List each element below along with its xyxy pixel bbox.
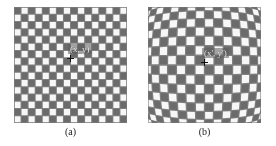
point-label-xy-prime: (x', y'): [202, 48, 229, 58]
crosshair-vertical: [204, 59, 205, 66]
crosshair-icon: [201, 59, 208, 66]
figure-container: (x, y) (x', y') (a) (b): [0, 0, 276, 146]
checkerboard-panel-b: (x', y'): [148, 7, 261, 123]
point-label-xy: (x, y): [68, 44, 92, 54]
caption-a: (a): [14, 126, 127, 138]
crosshair-vertical: [70, 55, 71, 62]
crosshair-icon: [67, 55, 74, 62]
checkerboard-canvas-a: [14, 7, 127, 123]
caption-b: (b): [148, 126, 261, 138]
checkerboard-panel-a: (x, y): [14, 7, 127, 123]
